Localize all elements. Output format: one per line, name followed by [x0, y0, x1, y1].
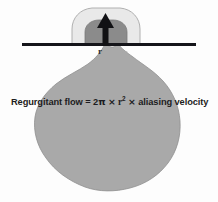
pi-symbol: π [98, 96, 105, 107]
formula-lead: Regurgitant flow = [11, 97, 91, 107]
ventricle-blob [34, 44, 180, 191]
regurgitant-flow-formula: Regurgitant flow = 2π × r2 × aliasing ve… [11, 96, 211, 108]
multiply-icon-2: × [128, 96, 136, 107]
formula-trailing: aliasing velocity [138, 97, 208, 107]
pisa-flow-diagram: r Regurgitant flow = 2π × r2 × aliasing … [0, 0, 218, 202]
formula-exponent: 2 [122, 95, 125, 102]
multiply-icon-1: × [108, 96, 116, 107]
radius-label: r [98, 46, 102, 56]
